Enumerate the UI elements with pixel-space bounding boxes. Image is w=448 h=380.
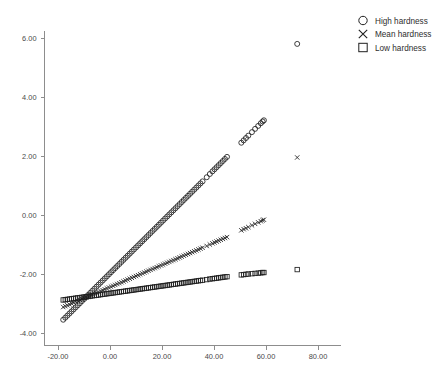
data-point-square xyxy=(295,267,299,271)
y-axis-tick-labels: -4.00-2.000.002.004.006.00 xyxy=(20,34,37,338)
y-tick-label: 2.00 xyxy=(22,152,36,161)
data-point-circle xyxy=(204,175,209,180)
y-tick-label: 4.00 xyxy=(22,93,36,102)
y-tick-label: -4.00 xyxy=(20,329,37,338)
legend-label: High hardness xyxy=(375,17,428,26)
x-tick-label: 20.00 xyxy=(153,352,172,361)
x-tick-label: 0.00 xyxy=(103,352,117,361)
x-tick-label: 80.00 xyxy=(309,352,328,361)
series-square xyxy=(61,267,299,302)
y-tick-label: -2.00 xyxy=(20,270,37,279)
legend-x-icon xyxy=(359,30,367,38)
plot-area: -20.000.0020.0040.0060.0080.00 -4.00-2.0… xyxy=(0,0,448,380)
data-point-x xyxy=(295,155,299,159)
data-point-circle xyxy=(295,41,300,46)
data-point-circle xyxy=(249,130,254,135)
scatter-chart: -20.000.0020.0040.0060.0080.00 -4.00-2.0… xyxy=(0,0,448,380)
legend-label: Mean hardness xyxy=(375,30,431,39)
legend-entry-circle[interactable]: High hardness xyxy=(359,16,428,25)
data-point-circle xyxy=(253,126,258,131)
x-tick-label: -20.00 xyxy=(48,352,69,361)
data-series-group xyxy=(61,41,300,322)
legend-square-icon xyxy=(359,43,367,51)
legend-entry-square[interactable]: Low hardness xyxy=(359,43,426,52)
legend-entry-x[interactable]: Mean hardness xyxy=(359,30,432,39)
legend-circle-icon xyxy=(359,16,367,24)
legend-label: Low hardness xyxy=(375,44,426,53)
y-tick-label: 6.00 xyxy=(22,34,36,43)
data-point-circle xyxy=(261,118,266,123)
x-tick-label: 60.00 xyxy=(257,352,276,361)
series-circle xyxy=(61,41,300,322)
y-tick-label: 0.00 xyxy=(22,211,36,220)
legend: High hardnessMean hardnessLow hardness xyxy=(359,16,432,52)
x-axis-tick-labels: -20.000.0020.0040.0060.0080.00 xyxy=(48,352,328,361)
x-tick-label: 40.00 xyxy=(205,352,224,361)
